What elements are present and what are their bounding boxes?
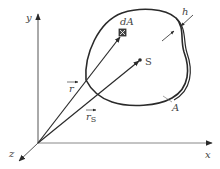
z-axis-label: z: [8, 148, 15, 159]
centroid: S: [138, 56, 152, 67]
centroid-vector-rs-label: rS: [86, 111, 96, 124]
thickness-label: h: [182, 6, 188, 17]
area-element-label: dA: [120, 16, 134, 27]
position-vector-r-label: r: [69, 83, 75, 94]
y-axis-label: y: [25, 12, 32, 23]
position-vector-r: [38, 37, 120, 143]
x-axis-label: x: [205, 149, 211, 160]
thickness-indicator: h: [162, 6, 193, 41]
thickness-arrow-inner: [162, 31, 174, 41]
area-element: dA: [119, 16, 134, 36]
centroid-label: S: [145, 56, 152, 67]
position-vector-label: r: [67, 82, 78, 94]
centroid-diagram: y x z dA S r rS h A: [0, 0, 220, 169]
area-label: A: [171, 102, 179, 113]
centroid-vector-rs: [38, 61, 139, 143]
centroid-point: [138, 58, 142, 62]
z-axis: [19, 143, 38, 161]
centroid-vector-label: rS: [86, 110, 96, 124]
